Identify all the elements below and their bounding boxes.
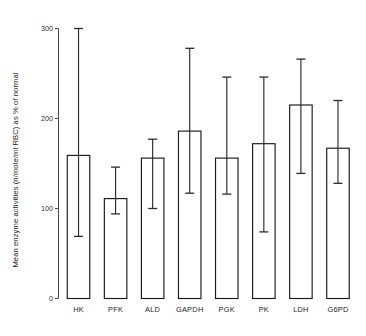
bar-group: HK — [67, 29, 90, 314]
x-axis-category-label: PGK — [219, 305, 235, 314]
x-axis-category-label: PK — [259, 305, 269, 314]
y-axis-tick-label: 300 — [41, 24, 53, 33]
bar-chart-plot: 0100200300Mean enzyme activities (n/mole… — [0, 0, 366, 336]
x-axis-category-label: GAPDH — [176, 305, 204, 314]
chart-figure: 0100200300Mean enzyme activities (n/mole… — [0, 0, 366, 336]
bar-group: G6PD — [327, 101, 350, 314]
bar-group: ALD — [141, 139, 164, 313]
x-axis-category-label: PFK — [108, 305, 123, 314]
y-axis-tick-label: 100 — [41, 204, 53, 213]
bar-group: PK — [253, 77, 276, 313]
bar-group: GAPDH — [176, 48, 204, 313]
y-axis-tick-label: 0 — [49, 294, 53, 303]
bar-group: LDH — [290, 59, 313, 313]
bar-group: PGK — [216, 77, 239, 313]
x-axis-category-label: HK — [73, 305, 84, 314]
bar-group: PFK — [104, 167, 127, 313]
x-axis-category-label: LDH — [293, 305, 309, 314]
x-axis-category-label: G6PD — [327, 305, 348, 314]
x-axis-category-label: ALD — [145, 305, 160, 314]
y-axis-tick-label: 200 — [41, 114, 53, 123]
y-axis-title: Mean enzyme activities (n/mole/ml RBC) a… — [11, 72, 20, 267]
